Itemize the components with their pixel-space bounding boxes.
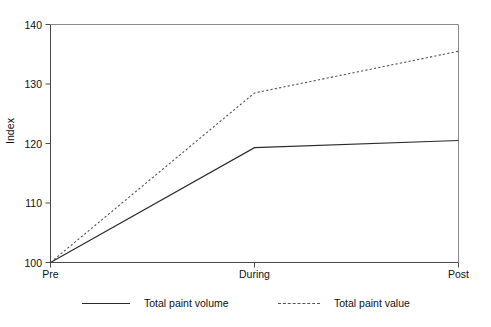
- series-line-total-paint-volume: [51, 141, 459, 263]
- series-line-total-paint-value: [51, 51, 459, 262]
- legend-item: Total paint value: [278, 294, 410, 312]
- line-chart: Index 100110120130140 PreDuringPost Tota…: [0, 0, 491, 327]
- legend-label: Total paint value: [334, 297, 410, 309]
- chart-legend: Total paint volumeTotal paint value: [0, 294, 491, 316]
- legend-line-sample-dashed: [278, 298, 320, 308]
- legend-rule: [82, 303, 130, 304]
- axes-frame: [51, 25, 459, 263]
- legend-line-sample-solid: [82, 298, 130, 308]
- legend-rule: [278, 303, 320, 304]
- legend-label: Total paint volume: [144, 297, 229, 309]
- plot-area: [0, 0, 491, 327]
- legend-item: Total paint volume: [82, 294, 229, 312]
- data-series-group: [51, 51, 459, 262]
